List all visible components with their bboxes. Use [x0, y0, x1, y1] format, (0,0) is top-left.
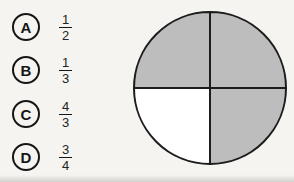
fraction-value-b: 1 3: [59, 56, 72, 85]
answer-options: A 1 2 B 1 3 C 4 3 D: [0, 0, 120, 182]
fraction-numerator: 3: [59, 143, 72, 156]
fraction-denominator: 3: [59, 116, 72, 129]
answer-option-b[interactable]: B 1 3: [12, 52, 72, 88]
fraction-circle-figure: [130, 8, 290, 168]
fraction-denominator: 4: [59, 159, 72, 172]
fraction-value-c: 4 3: [59, 100, 72, 129]
fraction-value-a: 1 2: [59, 13, 72, 42]
pie-quadrant-top-left: [134, 12, 210, 88]
answer-option-d[interactable]: D 3 4: [12, 139, 72, 175]
fraction-denominator: 2: [59, 29, 72, 42]
fraction-value-d: 3 4: [59, 143, 72, 172]
fraction-numerator: 4: [59, 100, 72, 113]
answer-option-a[interactable]: A 1 2: [12, 9, 72, 45]
option-letter-c[interactable]: C: [12, 100, 40, 128]
worksheet-question: A 1 2 B 1 3 C 4 3 D: [0, 0, 294, 182]
option-letter-d[interactable]: D: [12, 143, 40, 171]
pie-quadrant-bottom-right: [210, 88, 286, 164]
fraction-denominator: 3: [59, 72, 72, 85]
fraction-numerator: 1: [59, 13, 72, 26]
option-letter-b[interactable]: B: [12, 56, 40, 84]
fraction-numerator: 1: [59, 56, 72, 69]
answer-option-c[interactable]: C 4 3: [12, 96, 72, 132]
pie-quadrant-bottom-left: [134, 88, 210, 164]
option-letter-a[interactable]: A: [12, 13, 40, 41]
pie-quadrant-top-right: [210, 12, 286, 88]
